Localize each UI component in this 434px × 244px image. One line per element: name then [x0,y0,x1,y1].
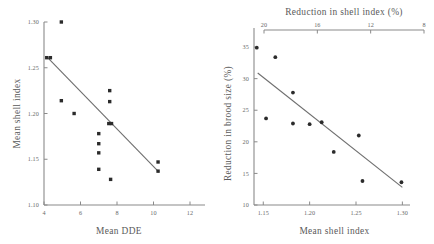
top-x-axis-title: Reduction in shell index (%) [285,7,403,18]
data-point [264,117,268,121]
top-x-tick-label: 16 [314,21,320,28]
data-point [109,178,112,181]
data-point [97,151,100,154]
x-axis-title: Mean DDE [96,226,142,236]
data-point [72,112,75,115]
x-tick-label: 4 [42,209,45,216]
data-point [60,99,63,102]
y-tick-label: 25 [243,106,249,113]
y-tick-label: 1.25 [28,64,39,71]
data-point [97,132,100,135]
data-point [332,150,336,154]
data-point [108,100,111,103]
y-tick-label: 1.10 [28,201,39,208]
data-point [156,160,159,163]
regression-line [48,58,159,172]
data-point [60,20,63,23]
x-tick-label: 1.20 [304,209,315,216]
regression-line [258,73,403,187]
data-point [291,91,295,95]
y-tick-label: 1.30 [28,18,39,25]
top-x-tick-label: 8 [422,21,425,28]
y-tick-label: 35 [243,43,249,50]
data-point [97,142,100,145]
data-point [49,56,52,59]
y-axis-title: Mean shell index [12,78,22,148]
data-point [357,134,361,138]
x-tick-label: 1.30 [397,209,408,216]
x-tick-label: 6 [79,209,82,216]
y-tick-label: 1.15 [28,155,39,162]
scatter-plot-mean-dde: 1.101.151.201.251.304681012Mean DDEMean … [0,0,217,244]
top-x-tick-label: 12 [367,21,373,28]
chart-panel-left: 1.101.151.201.251.304681012Mean DDEMean … [0,0,217,244]
data-point [361,179,365,183]
x-tick-label: 1.15 [258,209,269,216]
data-point [291,122,295,126]
data-point [108,89,111,92]
x-tick-label: 1.25 [350,209,361,216]
y-axis-title: Reduction in brood size (%) [223,66,234,181]
x-tick-label: 8 [115,209,118,216]
y-tick-label: 30 [243,75,249,82]
x-axis-title: Mean shell index [299,226,369,236]
chart-panel-right: 2016128Reduction in shell index (%)10152… [217,0,434,244]
data-point [110,122,113,125]
scatter-plot-brood-size: 2016128Reduction in shell index (%)10152… [217,0,434,244]
x-tick-label: 10 [150,209,156,216]
data-point [156,169,159,172]
y-tick-label: 20 [243,138,249,145]
x-tick-label: 12 [187,209,193,216]
figure-container: 1.101.151.201.251.304681012Mean DDEMean … [0,0,434,244]
top-x-tick-label: 20 [261,21,267,28]
data-point [273,55,277,59]
y-tick-label: 10 [243,201,249,208]
data-point [255,46,259,50]
data-point [97,168,100,171]
data-point [320,120,324,124]
y-tick-label: 1.20 [28,110,39,117]
data-point [45,56,48,59]
data-point [400,180,404,184]
data-point [308,122,312,126]
y-tick-label: 15 [243,170,249,177]
